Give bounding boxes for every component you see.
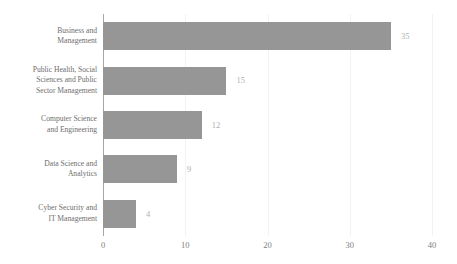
value-axis-ticks: 010203040 — [103, 240, 432, 258]
category-label-line: Sciences and Public — [36, 75, 97, 86]
bar-value-label: 12 — [212, 121, 221, 130]
bar[interactable] — [103, 67, 226, 95]
x-axis-tick-label: 30 — [346, 240, 355, 250]
x-axis-tick-label: 0 — [101, 240, 105, 250]
bar-value-label: 9 — [187, 165, 191, 174]
category-label: Business and Management — [0, 14, 97, 58]
category-axis-labels: Business and Management Public Health, S… — [0, 14, 100, 236]
bar-row[interactable]: 15 — [103, 58, 432, 102]
category-label-line: Computer Science — [41, 114, 97, 125]
category-label-line: and Engineering — [47, 125, 97, 136]
bar-chart: Business and Management Public Health, S… — [0, 0, 457, 264]
category-label-line: Analytics — [68, 169, 97, 180]
x-axis-tick-label: 20 — [263, 240, 272, 250]
category-label: Computer Science and Engineering — [0, 103, 97, 147]
bar[interactable] — [103, 155, 177, 183]
x-axis-tick-label: 10 — [181, 240, 190, 250]
category-label-line: Management — [57, 36, 97, 47]
category-label-line: IT Management — [48, 214, 97, 225]
plot-area: 35151294 — [103, 14, 432, 236]
bar-series: 35151294 — [103, 14, 432, 236]
category-label-line: Data Science and — [44, 159, 97, 170]
bar-value-label: 4 — [146, 210, 150, 219]
x-axis-tick-label: 40 — [428, 240, 437, 250]
bar-value-label: 35 — [401, 32, 410, 41]
gridline — [432, 14, 433, 236]
bar-value-label: 15 — [236, 76, 245, 85]
bar[interactable] — [103, 200, 136, 228]
bar[interactable] — [103, 111, 202, 139]
category-label: Cyber Security and IT Management — [0, 192, 97, 236]
bar-row[interactable]: 35 — [103, 14, 432, 58]
bar-row[interactable]: 4 — [103, 192, 432, 236]
category-label: Public Health, Social Sciences and Publi… — [0, 58, 97, 102]
bar-row[interactable]: 12 — [103, 103, 432, 147]
category-label: Data Science and Analytics — [0, 147, 97, 191]
category-label-line: Public Health, Social — [33, 65, 97, 76]
category-label-line: Sector Management — [36, 86, 97, 97]
category-label-line: Cyber Security and — [38, 203, 97, 214]
bar[interactable] — [103, 22, 391, 50]
bar-row[interactable]: 9 — [103, 147, 432, 191]
category-label-line: Business and — [57, 26, 97, 37]
